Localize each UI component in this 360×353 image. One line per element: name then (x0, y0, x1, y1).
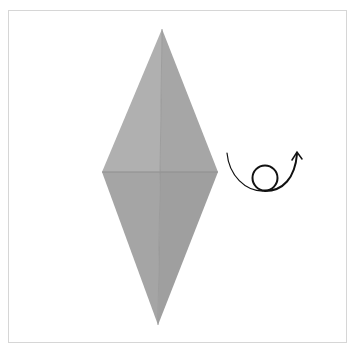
paper-lower-left-face (102, 172, 160, 325)
paper-upper-left-face (102, 29, 162, 172)
arrow-loop (253, 166, 278, 191)
origami-paper (102, 29, 218, 325)
arrow-tail (227, 153, 265, 191)
turn-over-arrow-icon (227, 152, 302, 191)
diagram-canvas (0, 0, 360, 353)
paper-lower-right-face (158, 172, 218, 325)
paper-upper-right-face (160, 29, 218, 172)
